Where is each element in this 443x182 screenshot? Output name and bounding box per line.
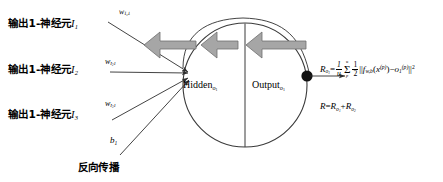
bottom-caption: 反向传播	[78, 162, 119, 173]
total-error-equation: R=Ro1+Ro2	[320, 102, 356, 111]
input-label-2: 输出1-神经元I2	[8, 64, 78, 76]
weight-label-1: wI11	[119, 8, 130, 16]
output-neuron-label: Outputo1	[252, 80, 285, 90]
backprop-arrow-3	[144, 32, 196, 58]
bias-line	[120, 80, 189, 155]
bias-label: b1	[110, 136, 117, 145]
weight-label-3: wI31	[105, 100, 116, 108]
diagram-canvas: 输出1-神经元I1 输出1-神经元I2 输出1-神经元I3 wI11 wI21 …	[0, 0, 443, 182]
input-line-2	[110, 72, 188, 73]
input-label-1: 输出1-神经元I1	[8, 18, 78, 30]
weight-label-2: wI21	[105, 58, 116, 66]
input-line-3	[112, 78, 188, 120]
error-equation: Ro1=1uuΣp12||fw,b(x(p))−o1(p)||2	[320, 60, 415, 79]
input-label-3: 输出1-神经元I3	[8, 109, 78, 121]
hidden-neuron-label: Hiddeno1	[183, 80, 217, 90]
